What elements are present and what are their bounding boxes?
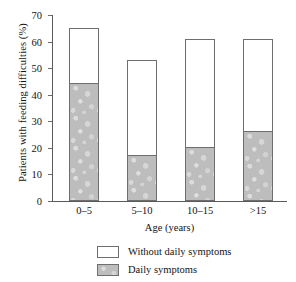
y-tick-label-20: 20	[32, 142, 43, 153]
chart-legend: Without daily symptoms Daily symptoms	[97, 244, 231, 280]
y-axis-line	[52, 15, 53, 202]
y-tick-label-0: 0	[37, 196, 42, 207]
y-tick-40: 40	[48, 95, 52, 96]
y-tick-0: 0	[48, 201, 52, 202]
bar-chart-figure: Patients with feeding difficulties (%) 0…	[0, 0, 296, 282]
legend-swatch-gray-icon	[97, 264, 119, 276]
legend-label-daily-symptoms: Daily symptoms	[128, 264, 197, 275]
y-tick-70: 70	[48, 15, 52, 16]
y-axis-title: Patients with feeding difficulties (%)	[17, 5, 28, 201]
y-tick-label-60: 60	[32, 36, 43, 47]
bar-segment-daily-10-15	[186, 147, 214, 200]
bar-age-10-15	[185, 39, 215, 201]
bar-age-over-15	[243, 39, 273, 201]
plot-area: 0 10 20 30 40 50 60 70	[52, 15, 287, 201]
x-tick-label-0-5: 0–5	[76, 205, 92, 216]
x-tick-label-10-15: 10–15	[187, 205, 213, 216]
bar-segment-daily-over-15	[244, 131, 272, 200]
y-tick-30: 30	[48, 121, 52, 122]
legend-label-without-daily-symptoms: Without daily symptoms	[128, 246, 231, 257]
y-tick-label-50: 50	[32, 63, 43, 74]
y-tick-label-40: 40	[32, 89, 43, 100]
x-axis-line	[52, 201, 287, 202]
y-tick-label-10: 10	[32, 169, 43, 180]
x-axis-title: Age (years)	[52, 222, 287, 233]
bar-segment-daily-5-10	[128, 155, 156, 200]
legend-item-without-daily-symptoms: Without daily symptoms	[97, 244, 231, 259]
x-tick-label-over-15: >15	[250, 205, 266, 216]
legend-swatch-white-icon	[97, 246, 119, 258]
bar-age-0-5	[69, 28, 99, 201]
y-tick-label-30: 30	[32, 116, 43, 127]
x-tick-label-5-10: 5–10	[132, 205, 153, 216]
legend-item-daily-symptoms: Daily symptoms	[97, 262, 231, 277]
bar-age-5-10	[127, 60, 157, 201]
y-tick-20: 20	[48, 148, 52, 149]
bar-segment-daily-0-5	[70, 83, 98, 200]
y-tick-60: 60	[48, 42, 52, 43]
y-tick-label-70: 70	[32, 10, 43, 21]
y-tick-10: 10	[48, 174, 52, 175]
y-tick-50: 50	[48, 68, 52, 69]
